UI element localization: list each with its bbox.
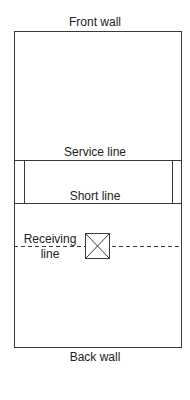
front-wall-label: Front wall bbox=[60, 16, 130, 29]
receiving-line-label-bottom: line bbox=[20, 248, 80, 261]
service-line-label: Service line bbox=[50, 146, 140, 159]
short-line-label: Short line bbox=[60, 190, 130, 203]
back-wall-label: Back wall bbox=[60, 351, 130, 364]
receiving-line-label-top: Receiving bbox=[20, 233, 80, 246]
